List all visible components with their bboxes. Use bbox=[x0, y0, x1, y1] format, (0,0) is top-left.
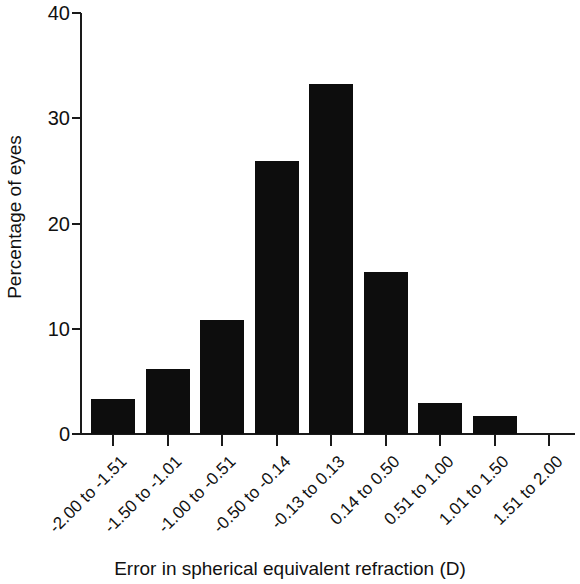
y-tick-mark-40 bbox=[72, 12, 81, 14]
x-tick-mark-6 bbox=[439, 435, 441, 446]
x-tick-mark-1 bbox=[167, 435, 169, 446]
x-tick-label: -1.00 to -0.51 bbox=[136, 452, 241, 557]
bar bbox=[473, 416, 517, 434]
y-tick-mark-10 bbox=[72, 328, 81, 330]
x-axis-title: Error in spherical equivalent refraction… bbox=[0, 558, 580, 580]
bar bbox=[91, 399, 135, 434]
y-tick-mark-20 bbox=[72, 223, 81, 225]
x-tick-label: -1.50 to -1.01 bbox=[81, 452, 186, 557]
x-tick-label: -0.50 to -0.14 bbox=[190, 452, 295, 557]
x-tick-label: 0.51 to 1.00 bbox=[354, 452, 459, 557]
y-tick-mark-30 bbox=[72, 117, 81, 119]
x-tick-mark-8 bbox=[548, 435, 550, 446]
bar bbox=[146, 369, 190, 434]
x-tick-label: 0.14 to 0.50 bbox=[299, 452, 404, 557]
bar bbox=[418, 403, 462, 434]
bar bbox=[309, 84, 353, 434]
x-tick-mark-7 bbox=[494, 435, 496, 446]
bar-chart-figure: Percentage of eyes 010203040 -2.00 to -1… bbox=[0, 0, 580, 584]
x-tick-mark-4 bbox=[330, 435, 332, 446]
x-tick-label: -2.00 to -1.51 bbox=[27, 452, 132, 557]
x-tick-label: 1.01 to 1.50 bbox=[408, 452, 513, 557]
x-tick-mark-3 bbox=[276, 435, 278, 446]
x-tick-label: -0.13 to 0.13 bbox=[245, 452, 350, 557]
y-tick-mark-0 bbox=[72, 433, 81, 435]
x-tick-mark-0 bbox=[112, 435, 114, 446]
x-tick-mark-5 bbox=[385, 435, 387, 446]
bar bbox=[255, 161, 299, 434]
x-tick-label: 1.51 to 2.00 bbox=[463, 452, 568, 557]
bar bbox=[200, 320, 244, 434]
plot-area bbox=[0, 0, 580, 434]
x-axis-title-text: Error in spherical equivalent refraction… bbox=[114, 558, 466, 579]
x-axis-tick-labels: -2.00 to -1.51-1.50 to -1.01-1.00 to -0.… bbox=[0, 434, 580, 544]
x-tick-mark-2 bbox=[221, 435, 223, 446]
bar bbox=[364, 272, 408, 434]
